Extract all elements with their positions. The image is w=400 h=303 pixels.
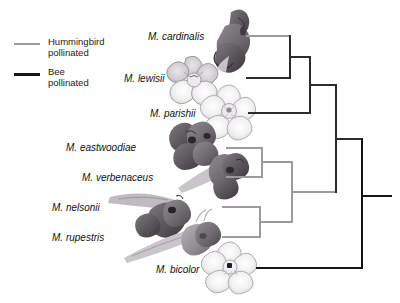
- phylogenetic-tree-figure: Hummingbird pollinated Bee pollinated M.…: [0, 0, 400, 303]
- cladogram-branches: [0, 0, 400, 303]
